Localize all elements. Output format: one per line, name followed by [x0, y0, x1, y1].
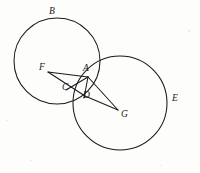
label-point-C: C — [62, 83, 68, 93]
segment-AC — [66, 77, 88, 90]
label-circle-B: B — [49, 7, 55, 17]
paper-speck — [30, 160, 33, 161]
paper-speck — [188, 30, 190, 32]
label-point-A: A — [83, 64, 89, 74]
paper-speck — [6, 120, 8, 121]
circles-group — [14, 18, 167, 150]
paper-speck — [160, 165, 162, 166]
segment-AG — [88, 77, 118, 110]
label-point-F: F — [39, 63, 45, 73]
label-point-D: D — [83, 91, 90, 101]
figure-canvas — [0, 0, 200, 173]
geometry-figure: B E A C D F G — [0, 0, 200, 173]
label-circle-E: E — [172, 94, 178, 104]
label-point-G: G — [121, 110, 128, 120]
